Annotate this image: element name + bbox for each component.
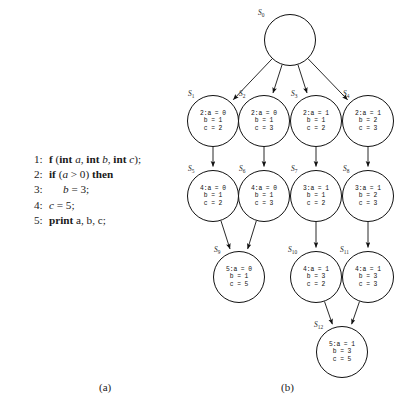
- node-circle: [342, 170, 394, 222]
- node-label-subscript: 3: [295, 93, 298, 99]
- node-circle: [290, 251, 342, 303]
- graph-edge-S11-S12: [352, 302, 360, 325]
- node-circle: [264, 14, 316, 66]
- code-line-number: 4:: [34, 198, 49, 213]
- code-token: int: [113, 153, 126, 165]
- code-token: int: [86, 153, 99, 165]
- code-line-number: 1:: [34, 152, 49, 167]
- code-line-number: 2:: [34, 167, 49, 182]
- node-circle: [316, 326, 368, 378]
- node-circle: [238, 170, 290, 222]
- code-token: = 3;: [69, 183, 90, 195]
- node-circle: [290, 170, 342, 222]
- caption-a: (a): [99, 381, 111, 393]
- code-token: if: [49, 168, 56, 180]
- graph-edge-S5-S9: [221, 221, 230, 249]
- graph-edge-S0-S3: [298, 65, 307, 93]
- node-label-subscript: 1: [192, 93, 195, 99]
- node-label-S10: S10: [288, 245, 297, 255]
- node-label-subscript: 4: [347, 93, 350, 99]
- graph-node-S10[interactable]: 4:a = 1b = 3c = 2: [290, 251, 342, 303]
- node-circle: [238, 95, 290, 147]
- graph-node-S4[interactable]: 2:a = 1b = 2c = 3: [342, 95, 394, 147]
- node-label-subscript: 2: [243, 93, 246, 99]
- code-line: 3:b = 3;: [34, 182, 184, 197]
- node-label-S1: S1: [188, 89, 194, 99]
- node-circle: [187, 95, 239, 147]
- node-circle: [290, 95, 342, 147]
- graph-edge-S0-S2: [273, 65, 282, 93]
- node-label-S7: S7: [291, 164, 297, 174]
- graph-node-S6[interactable]: 4:a = 0b = 1c = 3: [238, 170, 290, 222]
- node-label-subscript: 6: [243, 168, 246, 174]
- code-line: 4:c = 5;: [34, 198, 184, 213]
- node-label-S4: S4: [343, 89, 349, 99]
- code-line-text: c = 5;: [49, 198, 184, 213]
- graph-node-S7[interactable]: 3:a = 1b = 1c = 2: [290, 170, 342, 222]
- code-listing: 1:f (int a, int b, int c);2:if (a > 0) t…: [34, 152, 184, 228]
- node-circle: [213, 251, 265, 303]
- code-token: print: [49, 214, 73, 226]
- node-label-subscript: 10: [292, 249, 297, 255]
- graph-node-S2[interactable]: 2:a = 0b = 1c = 3: [238, 95, 290, 147]
- node-label-subscript: 11: [344, 249, 349, 255]
- code-line: 1:f (int a, int b, int c);: [34, 152, 184, 167]
- graph-node-S11[interactable]: 4:a = 1b = 3c = 3: [342, 251, 394, 303]
- node-label-S9: S9: [214, 245, 220, 255]
- node-label-S12: S12: [314, 320, 323, 330]
- node-label-subscript: 12: [318, 324, 323, 330]
- node-label-S6: S6: [239, 164, 245, 174]
- node-circle: [342, 95, 394, 147]
- code-line: 5:print a, b, c;: [34, 213, 184, 228]
- graph-edge-S10-S12: [325, 302, 333, 325]
- node-label-S3: S3: [291, 89, 297, 99]
- code-token: int: [59, 153, 72, 165]
- graph-node-S9[interactable]: 5:a = 0b = 1c = 5: [213, 251, 265, 303]
- graph-node-S12[interactable]: 5:a = 1b = 3c = 5: [316, 326, 368, 378]
- node-circle: [342, 251, 394, 303]
- code-line-text: print a, b, c;: [49, 213, 184, 228]
- graph-node-S1[interactable]: 2:a = 0b = 1c = 2: [187, 95, 239, 147]
- code-line: 2:if (a > 0) then: [34, 167, 184, 182]
- node-label-subscript: 5: [192, 168, 195, 174]
- figure-container: 1:f (int a, int b, int c);2:if (a > 0) t…: [0, 0, 401, 415]
- code-line-number: 3:: [34, 182, 49, 197]
- caption-b: (b): [281, 381, 294, 393]
- state-transition-graph: S02:a = 0b = 1c = 2S12:a = 0b = 1c = 3S2…: [186, 0, 401, 380]
- code-token: a, b, c;: [73, 214, 106, 226]
- node-label-subscript: 0: [262, 12, 265, 18]
- node-label-S0: S0: [258, 8, 264, 18]
- graph-edge-S6-S9: [248, 221, 257, 249]
- code-line-text: if (a > 0) then: [49, 167, 184, 182]
- node-label-S8: S8: [343, 164, 349, 174]
- code-token: = 5;: [54, 199, 75, 211]
- node-label-S2: S2: [239, 89, 245, 99]
- graph-node-S5[interactable]: 4:a = 0b = 1c = 2: [187, 170, 239, 222]
- node-label-S11: S11: [340, 245, 349, 255]
- node-label-subscript: 7: [295, 168, 298, 174]
- code-token: > 0: [68, 168, 86, 180]
- node-label-subscript: 8: [347, 168, 350, 174]
- code-line-text: b = 3;: [49, 182, 184, 197]
- code-token: );: [134, 153, 141, 165]
- code-line-text: f (int a, int b, int c);: [49, 152, 184, 167]
- node-circle: [187, 170, 239, 222]
- node-label-S5: S5: [188, 164, 194, 174]
- graph-node-S0[interactable]: [264, 14, 316, 66]
- node-label-subscript: 9: [218, 249, 221, 255]
- code-token: then: [92, 168, 113, 180]
- code-line-number: 5:: [34, 213, 49, 228]
- graph-node-S3[interactable]: 2:a = 1b = 1c = 2: [290, 95, 342, 147]
- graph-node-S8[interactable]: 3:a = 1b = 2c = 3: [342, 170, 394, 222]
